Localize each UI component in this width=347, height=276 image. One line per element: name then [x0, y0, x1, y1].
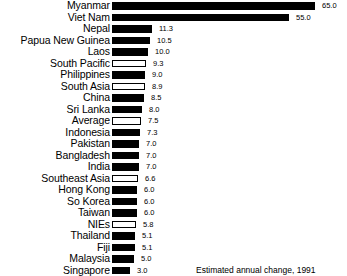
category-label: Philippines	[0, 69, 110, 81]
bar-row: Malaysia5.0	[0, 253, 347, 265]
bar-value-label: 55.0	[296, 12, 311, 24]
bar-value-label: 65.0	[322, 0, 337, 12]
bar-solid	[112, 198, 137, 206]
bar-solid	[112, 48, 148, 56]
bar-value-label: 8.9	[152, 81, 162, 93]
bar-row: Average7.5	[0, 115, 347, 127]
category-label: Singapore	[0, 265, 110, 276]
bar-row: India7.0	[0, 161, 347, 173]
bar-track: 9.3	[110, 58, 347, 70]
bar-solid	[112, 267, 130, 275]
category-label: Thailand	[0, 230, 110, 242]
bar-value-label: 8.0	[149, 104, 159, 116]
bar-value-label: 3.0	[137, 265, 147, 276]
bar-track: 55.0	[110, 12, 347, 24]
bar-solid	[112, 106, 142, 114]
bar-hollow	[112, 117, 141, 125]
bar-track: 7.5	[110, 115, 347, 127]
bar-row: NIEs5.8	[0, 219, 347, 231]
bar-solid	[112, 140, 139, 148]
bar-value-label: 7.0	[146, 138, 156, 150]
bar-value-label: 6.6	[145, 173, 155, 185]
bar-track: 7.0	[110, 150, 347, 162]
bar-solid	[112, 255, 134, 263]
bar-row: Bangladesh7.0	[0, 150, 347, 162]
bar-chart: Myanmar65.0Viet Nam55.0Nepal11.3Papua Ne…	[0, 0, 347, 276]
bar-value-label: 8.5	[151, 92, 161, 104]
bar-row: Philippines9.0	[0, 69, 347, 81]
bar-row: So Korea6.0	[0, 196, 347, 208]
bar-solid	[112, 37, 150, 45]
bar-row: China8.5	[0, 92, 347, 104]
bar-track: 7.3	[110, 127, 347, 139]
bar-solid	[112, 71, 145, 79]
bar-track: 11.3	[110, 23, 347, 35]
bar-solid	[112, 129, 140, 137]
bar-track: 65.0	[110, 0, 347, 12]
bar-value-label: 9.0	[152, 69, 162, 81]
bar-row: Viet Nam55.0	[0, 12, 347, 24]
bar-value-label: 5.8	[143, 219, 153, 231]
bar-value-label: 7.0	[146, 150, 156, 162]
bar-hollow	[112, 83, 145, 91]
bar-track: 9.0	[110, 69, 347, 81]
chart-x-axis-caption: Estimated annual change, 1991	[196, 265, 316, 275]
bar-track: 8.5	[110, 92, 347, 104]
bar-value-label: 7.0	[146, 161, 156, 173]
category-label: Hong Kong	[0, 184, 110, 196]
bar-solid	[112, 25, 152, 33]
bar-value-label: 6.0	[144, 196, 154, 208]
bar-track: 5.8	[110, 219, 347, 231]
category-label: Malaysia	[0, 253, 110, 265]
bar-track: 6.6	[110, 173, 347, 185]
bar-track: 6.0	[110, 184, 347, 196]
bar-track: 8.9	[110, 81, 347, 93]
bar-row: Nepal11.3	[0, 23, 347, 35]
bar-row: Hong Kong6.0	[0, 184, 347, 196]
bar-row: South Asia8.9	[0, 81, 347, 93]
bar-value-label: 5.1	[142, 242, 152, 254]
category-label: Nepal	[0, 23, 110, 35]
bar-solid	[112, 186, 137, 194]
bar-solid	[112, 94, 144, 102]
category-label: Pakistan	[0, 138, 110, 150]
bar-value-label: 7.5	[148, 115, 158, 127]
bar-row: Fiji5.1	[0, 242, 347, 254]
category-label: China	[0, 92, 110, 104]
bar-value-label: 5.1	[142, 230, 152, 242]
bar-value-label: 10.0	[155, 46, 170, 58]
bar-solid	[112, 152, 139, 160]
bar-value-label: 5.0	[141, 253, 151, 265]
bar-row: Taiwan6.0	[0, 207, 347, 219]
bar-track: 10.5	[110, 35, 347, 47]
bar-track: 7.0	[110, 138, 347, 150]
bar-row: Myanmar65.0	[0, 0, 347, 12]
bar-hollow	[112, 175, 138, 183]
bar-track: 8.0	[110, 104, 347, 116]
bar-value-label: 6.0	[144, 207, 154, 219]
bar-rows-container: Myanmar65.0Viet Nam55.0Nepal11.3Papua Ne…	[0, 0, 347, 276]
bar-solid	[112, 2, 315, 10]
bar-row: South Pacific9.3	[0, 58, 347, 70]
bar-track: 7.0	[110, 161, 347, 173]
bar-value-label: 7.3	[147, 127, 157, 139]
bar-row: Southeast Asia6.6	[0, 173, 347, 185]
bar-hollow	[112, 221, 136, 229]
bar-row: Sri Lanka8.0	[0, 104, 347, 116]
bar-row: Papua New Guinea10.5	[0, 35, 347, 47]
bar-value-label: 6.0	[144, 184, 154, 196]
bar-value-label: 9.3	[153, 58, 163, 70]
bar-row: Indonesia7.3	[0, 127, 347, 139]
bar-solid	[112, 244, 135, 252]
bar-value-label: 11.3	[159, 23, 173, 35]
category-label: Average	[0, 115, 110, 127]
bar-solid	[112, 209, 137, 217]
bar-track: 5.0	[110, 253, 347, 265]
bar-solid	[112, 163, 139, 171]
bar-track: 10.0	[110, 46, 347, 58]
bar-track: 5.1	[110, 242, 347, 254]
bar-hollow	[112, 60, 146, 68]
bar-track: 6.0	[110, 196, 347, 208]
bar-row: Pakistan7.0	[0, 138, 347, 150]
bar-track: 6.0	[110, 207, 347, 219]
